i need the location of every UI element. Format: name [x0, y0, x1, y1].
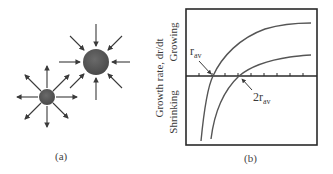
- arrow-r-av: [199, 61, 211, 74]
- small-particle: [39, 89, 55, 105]
- curve-r-av: [201, 23, 311, 141]
- panel-b-caption: (b): [244, 152, 257, 164]
- chart-frame: [186, 9, 317, 145]
- arrow-2r-av: [242, 79, 252, 90]
- panel-b: Growth rate, dr/dt Growing Shrinking rav: [130, 0, 333, 174]
- region-growing-label: Growing: [167, 22, 179, 62]
- annotation-2r-av: 2rav: [253, 90, 271, 106]
- region-shrinking-label: Shrinking: [167, 90, 179, 134]
- panel-a: (a): [0, 0, 130, 174]
- y-axis-label: Growth rate, dr/dt: [153, 38, 165, 117]
- annotation-r-av: rav: [190, 44, 202, 60]
- panel-a-caption: (a): [55, 150, 67, 162]
- particles-diagram: [0, 0, 130, 174]
- growth-rate-chart: Growth rate, dr/dt Growing Shrinking rav: [130, 0, 333, 174]
- large-particle: [83, 49, 109, 75]
